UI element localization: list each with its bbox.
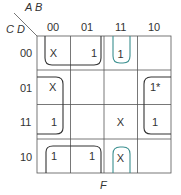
col-label-10: 10 [148,22,160,33]
cell-r1-c3: 1* [138,70,171,104]
cell-r3-c1: 1 [71,139,104,173]
cell-r3-c3 [138,139,171,173]
cell-r2-c1 [71,105,104,139]
col-label-00: 00 [47,22,59,33]
row-label-00: 00 [20,48,32,59]
row-label-01: 01 [20,83,32,94]
col-label-11: 11 [115,22,126,33]
cell-r2-c2: X [104,105,137,139]
cell-r3-c0: 1 [37,139,70,173]
row-label-11: 11 [20,117,31,128]
cell-r0-c3 [138,36,171,70]
row-label-10: 10 [20,152,32,163]
cell-r0-c1: 1 [71,36,104,70]
col-label-01: 01 [81,22,93,33]
cell-r0-c2: 1 [104,36,137,72]
row-variables-label: C D [6,24,25,35]
cell-r2-c0: 1 [37,105,70,139]
output-label: F [100,180,107,191]
cell-r0-c0: X [37,36,70,70]
cell-r1-c2 [104,70,137,104]
cell-r2-c3: 1 [138,105,171,139]
col-variables-label: A B [25,2,42,13]
cell-r1-c0: X [37,70,70,104]
cell-r3-c2: X [104,141,137,175]
cell-r1-c1 [71,70,104,104]
